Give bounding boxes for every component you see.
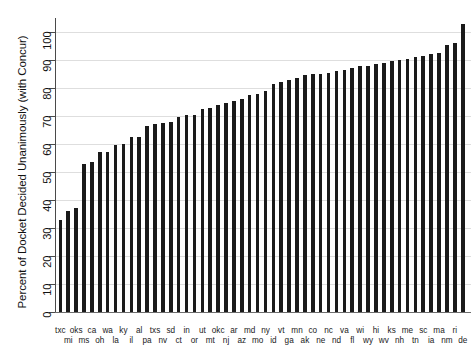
y-tick-label: 90 — [42, 60, 53, 72]
bar — [366, 66, 370, 312]
bar — [145, 126, 149, 312]
bar — [66, 211, 70, 312]
bar — [106, 152, 110, 312]
x-tick-label: ri — [444, 327, 466, 335]
y-tick-label: 60 — [42, 144, 53, 156]
bar — [327, 73, 331, 312]
bar — [59, 220, 63, 312]
bar — [185, 115, 189, 312]
bar — [137, 137, 141, 312]
bar — [279, 82, 283, 312]
y-tick-label: 30 — [42, 228, 53, 240]
bar — [161, 123, 165, 312]
bar — [272, 84, 276, 312]
y-tick-label: 10 — [42, 284, 53, 296]
bar — [224, 103, 228, 312]
bar — [335, 71, 339, 312]
bar — [295, 78, 299, 312]
y-tick-label: 20 — [42, 256, 53, 268]
bar — [114, 145, 118, 312]
bar — [130, 137, 134, 312]
bar — [240, 99, 244, 312]
y-tick-label: 50 — [42, 172, 53, 184]
bar — [287, 80, 291, 312]
bar — [90, 162, 94, 312]
chart-figure: Percent of Docket Decided Unanimously (w… — [0, 0, 476, 357]
bar — [350, 68, 354, 312]
x-axis-tick-labels: txcmioksmscaohwalakyilalpatxsnvsdctinoru… — [56, 315, 471, 355]
bar — [98, 152, 102, 312]
bar — [201, 109, 205, 312]
y-tick-label: 100 — [42, 32, 53, 50]
bar-series — [56, 18, 471, 312]
bar — [445, 45, 449, 312]
y-axis-title: Percent of Docket Decided Unanimously (w… — [16, 12, 28, 332]
bar — [256, 94, 260, 312]
bar — [437, 53, 441, 312]
bar — [374, 64, 378, 312]
bar — [82, 164, 86, 312]
bar — [248, 95, 252, 312]
bar — [429, 54, 433, 312]
bar — [169, 122, 173, 312]
bar — [74, 208, 78, 312]
y-tick-label: 70 — [42, 116, 53, 128]
bar — [390, 61, 394, 312]
bar — [193, 115, 197, 312]
bar — [414, 57, 418, 312]
y-tick-label: 80 — [42, 88, 53, 100]
bar — [453, 43, 457, 312]
bar — [232, 101, 236, 312]
bar — [122, 144, 126, 312]
plot-area: 0102030405060708090100 — [56, 18, 471, 312]
bar — [406, 59, 410, 312]
bar — [382, 63, 386, 312]
bar — [319, 74, 323, 312]
bar — [461, 24, 465, 312]
bar — [398, 60, 402, 312]
bar — [153, 124, 157, 312]
bar — [177, 117, 181, 312]
bar — [358, 66, 362, 312]
bar — [311, 74, 315, 312]
y-tick-label: 0 — [42, 312, 53, 318]
bar — [216, 105, 220, 312]
bar — [208, 108, 212, 312]
bar — [421, 56, 425, 312]
x-tick-label: de — [452, 337, 474, 345]
x-axis-line — [55, 312, 471, 313]
bar — [264, 91, 268, 312]
bar — [303, 75, 307, 312]
y-tick-label: 40 — [42, 200, 53, 212]
bar — [343, 70, 347, 312]
